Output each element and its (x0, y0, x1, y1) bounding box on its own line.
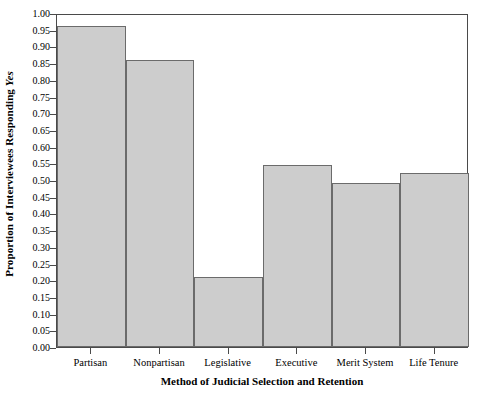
bar-chart-figure: Proportion of Interviewees Responding Ye… (0, 0, 480, 400)
bar-executive (263, 165, 332, 347)
y-axis-tick-label: 0.90 (18, 42, 50, 52)
y-axis-tick-label: 0.10 (18, 310, 50, 320)
x-axis-tick-labels: PartisanNonpartisanLegislativeExecutiveM… (56, 356, 468, 372)
bar-nonpartisan (126, 60, 195, 347)
y-axis-tick-label: 0.60 (18, 143, 50, 153)
x-axis-tick-label: Life Tenure (399, 356, 468, 369)
y-axis-tick-label: 0.20 (18, 276, 50, 286)
x-axis-title: Method of Judicial Selection and Retenti… (56, 375, 468, 387)
y-axis-tick-label: 0.35 (18, 226, 50, 236)
x-axis-tick-mark (365, 348, 366, 354)
y-axis-tick-label: 0.95 (18, 26, 50, 36)
bar-life-tenure (400, 173, 469, 347)
bars-container (57, 15, 467, 347)
y-axis-tick-label: 0.55 (18, 159, 50, 169)
x-axis-tick-label: Merit System (331, 356, 400, 369)
y-axis-title: Proportion of Interviewees Responding Ye… (0, 0, 18, 348)
x-axis-tick-mark (90, 348, 91, 354)
x-axis-tick-label: Partisan (56, 356, 125, 369)
y-axis-tick-label: 0.65 (18, 126, 50, 136)
x-axis-tick-mark (159, 348, 160, 354)
y-axis-tick-label: 0.00 (18, 343, 50, 353)
x-axis-tick-label: Nonpartisan (125, 356, 194, 369)
y-axis-tick-label: 0.05 (18, 326, 50, 336)
y-axis-tick-label: 1.00 (18, 9, 50, 19)
y-axis-title-plain: Proportion of Interviewees Responding (3, 86, 15, 277)
bar-partisan (57, 26, 126, 347)
x-axis-tick-mark (228, 348, 229, 354)
y-axis-tick-label: 0.30 (18, 243, 50, 253)
x-axis-tick-marks (56, 348, 468, 354)
x-axis-tick-mark (434, 348, 435, 354)
y-axis-tick-label: 0.40 (18, 209, 50, 219)
plot-area (56, 14, 468, 348)
x-axis-tick-mark (296, 348, 297, 354)
y-axis-tick-label: 0.80 (18, 76, 50, 86)
x-axis-tick-label: Executive (262, 356, 331, 369)
y-axis-tick-label: 0.75 (18, 93, 50, 103)
y-axis-title-italic: Yes (3, 71, 15, 86)
y-axis-tick-label: 0.15 (18, 293, 50, 303)
y-axis-tick-label: 0.25 (18, 260, 50, 270)
bar-legislative (194, 277, 263, 347)
y-axis-tick-labels: 0.000.050.100.150.200.250.300.350.400.45… (18, 0, 50, 400)
bar-merit-system (332, 183, 401, 347)
y-axis-tick-label: 0.45 (18, 193, 50, 203)
y-axis-tick-label: 0.85 (18, 59, 50, 69)
x-axis-tick-label: Legislative (193, 356, 262, 369)
y-axis-tick-label: 0.70 (18, 109, 50, 119)
y-axis-tick-label: 0.50 (18, 176, 50, 186)
y-axis-title-text: Proportion of Interviewees Responding Ye… (3, 71, 15, 277)
